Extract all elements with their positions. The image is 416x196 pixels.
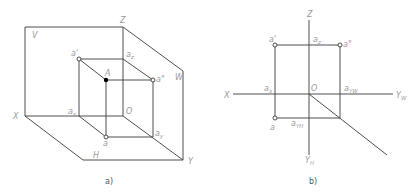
point-a-double-prime [151,78,155,82]
label-a-prime: a' [269,35,276,44]
label-axis-yh: YH [305,156,314,166]
label-origin: O [126,107,132,116]
caption-b: b) [309,177,317,186]
label-a-prime: a' [71,49,78,58]
label-axis-yw: YW [396,91,407,101]
label-a-double-prime: a" [156,75,165,84]
point-a [273,116,277,120]
label-a-double-prime: a" [343,40,352,49]
label-axis-x: X [12,112,19,121]
label-plane-v: V [32,31,38,40]
label-a-x: ax [68,107,77,117]
point-A [104,78,108,82]
label-A: A [104,69,110,78]
label-origin: O [311,84,317,93]
figure-b: Z X YW YH O a' a" a az ax aYW aYH b) [223,10,407,186]
label-a-y: ay [155,129,164,140]
projection-diagrams: V W H Z X Y O A a' a" a az ax ay a) Z [0,0,416,196]
label-a-yh: aYH [291,119,303,129]
label-a-z: az [126,50,134,60]
label-axis-y: Y [188,157,194,166]
label-axis-x: X [223,91,230,100]
proj-line [123,59,153,80]
figure-a: V W H Z X Y O A a' a" a az ax ay a) [12,16,194,186]
miter-line [309,94,387,155]
label-plane-h: H [93,151,99,160]
label-a-yw: aYW [344,84,358,94]
label-axis-z: Z [306,10,313,19]
label-axis-z: Z [119,16,126,25]
proj-line [79,116,106,137]
point-a-double-prime [338,43,342,47]
proj-line [79,59,106,80]
caption-a: a) [105,177,113,186]
label-a: a [103,139,108,148]
label-plane-w: W [175,73,184,82]
label-a-x: ax [264,84,273,94]
label-a-z: az [313,35,321,45]
label-a: a [270,123,275,132]
